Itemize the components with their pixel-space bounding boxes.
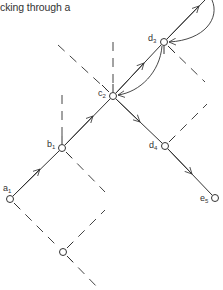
node-bottom	[60, 249, 67, 256]
node-c2	[110, 93, 117, 100]
svg-text:b1: b1	[47, 139, 56, 150]
svg-text:a1: a1	[3, 183, 12, 194]
backtracking-tree-diagram: a1 b1 c2 d3 d4 e5	[0, 0, 223, 290]
svg-text:d4: d4	[149, 140, 158, 151]
node-b1	[59, 145, 66, 152]
backtrack-arrows	[118, 0, 214, 95]
node-d4	[162, 143, 169, 150]
node-d3	[161, 39, 168, 46]
dashed-branches	[14, 42, 207, 290]
backtrack-top-to-d3	[169, 0, 214, 42]
svg-text:e5: e5	[200, 193, 209, 204]
nodes	[7, 39, 219, 256]
backtrack-d3-to-c2	[118, 46, 162, 95]
node-labels: a1 b1 c2 d3 d4 e5	[3, 33, 209, 204]
svg-text:c2: c2	[98, 88, 107, 99]
node-e5	[212, 195, 219, 202]
svg-text:d3: d3	[148, 33, 157, 44]
node-a1	[7, 196, 14, 203]
